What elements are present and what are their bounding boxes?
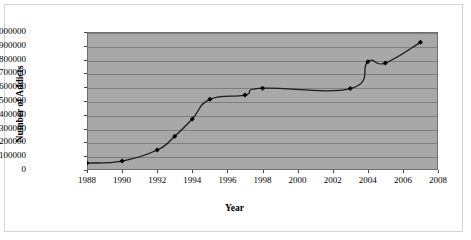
x-axis-tick-mark (157, 170, 158, 173)
gridline (88, 102, 437, 103)
y-axis-tick-label: 600000 (0, 82, 26, 91)
x-axis-tick-mark (192, 170, 193, 173)
x-axis-tick-mark (263, 170, 264, 173)
x-axis-tick-mark (87, 170, 88, 173)
y-axis-tick-label: 500000 (0, 96, 26, 105)
x-axis-tick-label: 1988 (67, 175, 107, 185)
y-axis-tick-mark (84, 142, 87, 143)
gridline (88, 47, 437, 48)
y-axis-tick-label: 400000 (0, 110, 26, 119)
y-axis-tick-label: 900000 (0, 41, 26, 50)
y-axis-tick-mark (84, 46, 87, 47)
gridline (88, 61, 437, 62)
x-axis-tick-label: 1994 (172, 175, 212, 185)
y-axis-tick-mark (84, 73, 87, 74)
y-axis-tick-label: 800000 (0, 55, 26, 64)
x-axis-tick-mark (298, 170, 299, 173)
y-axis-tick-label: 700000 (0, 68, 26, 77)
x-axis-tick-mark (438, 170, 439, 173)
x-axis-tick-mark (333, 170, 334, 173)
x-axis-tick-label: 2008 (418, 175, 458, 185)
gridline (88, 74, 437, 75)
x-axis-tick-label: 2000 (278, 175, 318, 185)
y-axis-tick-label: 300000 (0, 124, 26, 133)
gridline (88, 116, 437, 117)
x-axis-tick-label: 1990 (102, 175, 142, 185)
x-axis-tick-label: 1992 (137, 175, 177, 185)
chart-figure: Number of Addicts 0100000200000300000400… (4, 4, 463, 232)
y-axis-tick-mark (84, 129, 87, 130)
y-axis-tick-mark (84, 60, 87, 61)
y-axis-tick-label: 100000 (0, 151, 26, 160)
x-axis-title-text: Year (225, 203, 244, 213)
y-axis-tick-mark (84, 87, 87, 88)
y-axis-tick-label: 0 (0, 165, 26, 174)
gridline (88, 33, 437, 34)
x-axis-tick-label: 1998 (243, 175, 283, 185)
x-axis-tick-label: 1996 (207, 175, 247, 185)
x-axis-tick-mark (403, 170, 404, 173)
gridline (88, 143, 437, 144)
plot-area (87, 32, 438, 170)
y-axis-tick-label: 1000000 (0, 27, 26, 36)
x-axis-tick-mark (368, 170, 369, 173)
gridline (88, 157, 437, 158)
y-axis-tick-mark (84, 101, 87, 102)
y-axis-tick-mark (84, 156, 87, 157)
x-axis-title: Year (5, 203, 464, 213)
x-axis-tick-mark (122, 170, 123, 173)
gridline (88, 130, 437, 131)
y-axis-tick-mark (84, 115, 87, 116)
x-axis-tick-label: 2002 (313, 175, 353, 185)
x-axis-tick-label: 2004 (348, 175, 388, 185)
x-axis-tick-label: 2006 (383, 175, 423, 185)
x-axis-tick-mark (227, 170, 228, 173)
y-axis-tick-mark (84, 32, 87, 33)
gridline (88, 88, 437, 89)
y-axis-tick-label: 200000 (0, 137, 26, 146)
